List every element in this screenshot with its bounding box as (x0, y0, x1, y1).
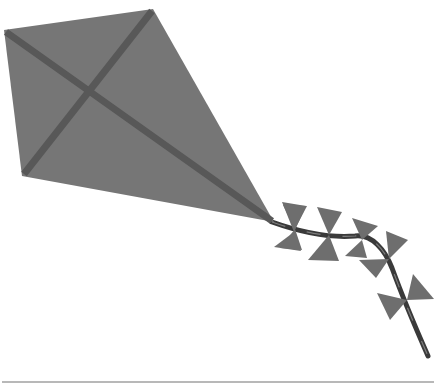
kite-scene (0, 0, 446, 384)
kite-illustration (0, 0, 446, 384)
baseline-divider (2, 381, 434, 383)
